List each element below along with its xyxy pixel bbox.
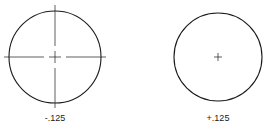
left-label: -.125	[45, 113, 66, 123]
left-figure: -.125	[4, 5, 106, 123]
diagram-canvas: -.125 +.125	[0, 0, 263, 128]
right-label: +.125	[207, 113, 230, 123]
right-figure: +.125	[174, 13, 262, 123]
